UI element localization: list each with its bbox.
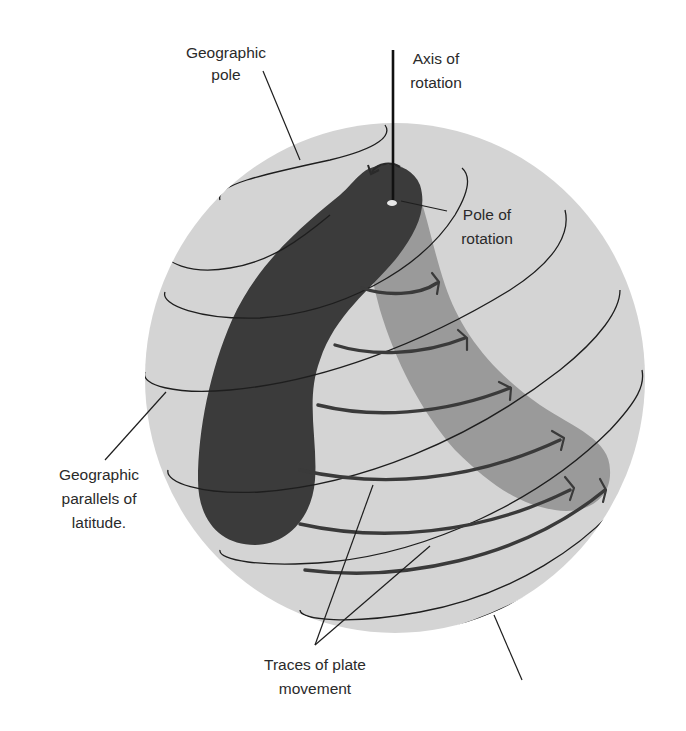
label-geographic-pole: Geographic pole xyxy=(186,44,266,83)
svg-text:rotation: rotation xyxy=(410,74,462,91)
svg-text:movement: movement xyxy=(279,680,352,697)
label-parallels-of-latitude: Geographic parallels of latitude. xyxy=(59,466,139,531)
svg-text:rotation: rotation xyxy=(461,230,513,247)
svg-text:Pole of: Pole of xyxy=(463,206,512,223)
svg-text:parallels of: parallels of xyxy=(62,490,138,507)
pole-of-rotation-marker xyxy=(387,200,397,206)
label-axis-of-rotation: Axis of rotation xyxy=(410,50,462,91)
svg-text:pole: pole xyxy=(211,66,240,83)
svg-text:Axis of: Axis of xyxy=(413,50,460,67)
label-traces-of-plate-movement: Traces of plate movement xyxy=(264,656,366,697)
svg-text:latitude.: latitude. xyxy=(72,514,126,531)
plate-rotation-diagram: Geographic pole Axis of rotation Pole of… xyxy=(0,0,686,731)
svg-text:Geographic: Geographic xyxy=(186,44,266,61)
svg-text:Geographic: Geographic xyxy=(59,466,139,483)
svg-text:Traces of plate: Traces of plate xyxy=(264,656,366,673)
